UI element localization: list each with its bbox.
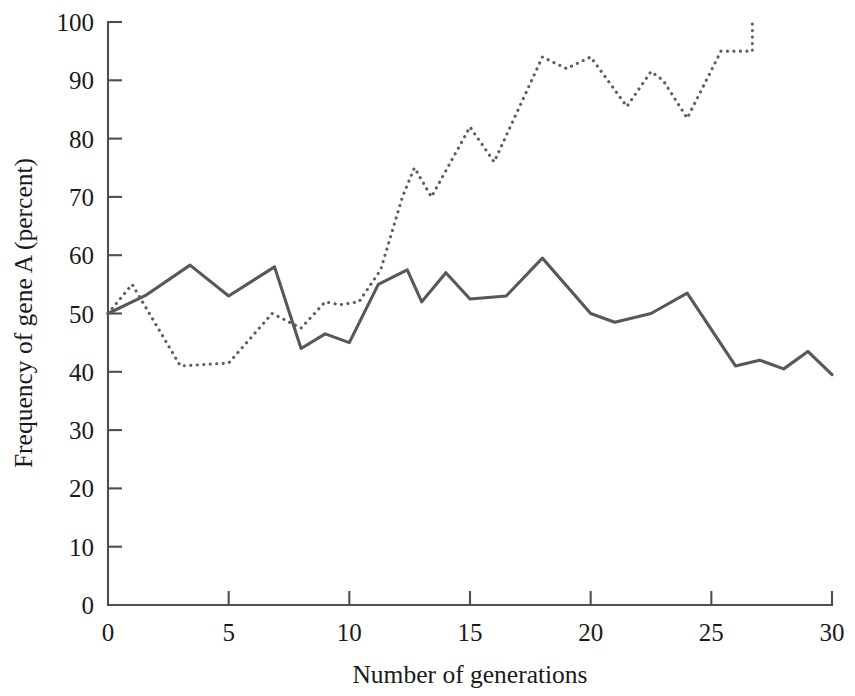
series-line-solid <box>108 258 832 375</box>
y-axis-ticks: 0102030405060708090100 <box>57 9 123 619</box>
y-axis-title: Frequency of gene A (percent) <box>9 158 38 468</box>
y-tick-label: 100 <box>57 9 95 36</box>
y-tick-label: 10 <box>69 534 94 561</box>
chart-svg: 0102030405060708090100 051015202530 Numb… <box>0 0 855 696</box>
x-tick-label: 0 <box>102 619 115 646</box>
x-tick-label: 10 <box>337 619 362 646</box>
y-tick-label: 20 <box>69 475 94 502</box>
x-tick-label: 5 <box>222 619 235 646</box>
gene-frequency-chart: 0102030405060708090100 051015202530 Numb… <box>0 0 855 696</box>
y-tick-label: 80 <box>69 126 94 153</box>
axis-titles: Number of generations Frequency of gene … <box>9 158 588 689</box>
x-tick-label: 30 <box>820 619 845 646</box>
axes: 0102030405060708090100 051015202530 <box>57 9 845 646</box>
y-tick-label: 0 <box>82 592 95 619</box>
x-axis-ticks: 051015202530 <box>102 591 845 646</box>
y-tick-label: 60 <box>69 242 94 269</box>
series-line-dotted <box>108 22 752 366</box>
y-tick-label: 40 <box>69 359 94 386</box>
x-tick-label: 20 <box>578 619 603 646</box>
y-tick-label: 90 <box>69 67 94 94</box>
axis-lines <box>108 22 832 605</box>
y-tick-label: 30 <box>69 417 94 444</box>
x-axis-title: Number of generations <box>352 660 587 689</box>
series-group <box>108 22 832 375</box>
y-tick-label: 50 <box>69 301 94 328</box>
y-tick-label: 70 <box>69 184 94 211</box>
x-tick-label: 25 <box>699 619 724 646</box>
x-tick-label: 15 <box>458 619 483 646</box>
